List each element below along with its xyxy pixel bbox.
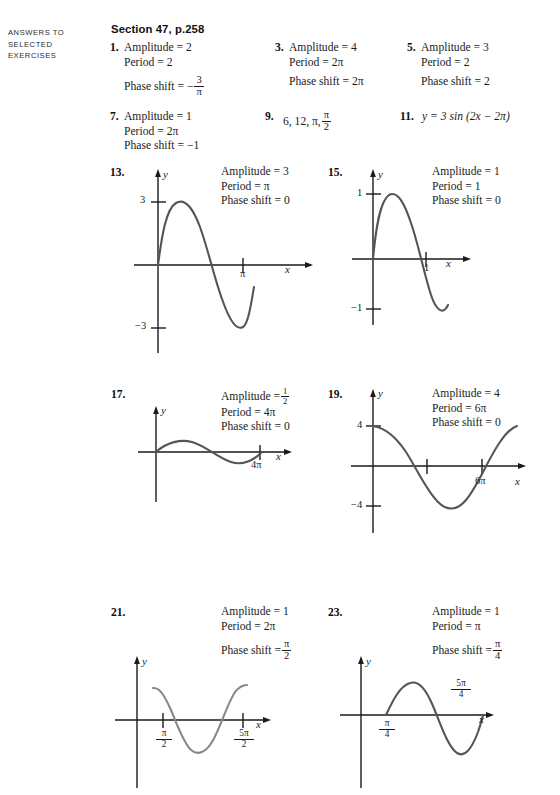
fraction-denominator: 4 [379, 729, 395, 740]
label-amplitude: Amplitude = [421, 41, 480, 54]
graph-13-y-tick-label-neg3: −3 [135, 320, 146, 331]
label-phase-shift: Phase shift = [421, 75, 481, 88]
x-axis-arrow [518, 463, 526, 469]
graph-23-x-label: x [479, 713, 484, 725]
answer-21-period: Period = 2π [221, 620, 292, 635]
answer-7-number: 7. [110, 110, 119, 125]
label-period: Period = [421, 56, 461, 69]
y-axis-arrow [370, 169, 376, 177]
label-period: Period = [124, 56, 164, 69]
answer-23-amplitude: Amplitude = 1 [432, 605, 503, 620]
graph-17-x-label: x [276, 450, 281, 462]
x-axis-arrow [305, 262, 313, 268]
answer-5-amplitude: Amplitude = 3 [421, 41, 490, 56]
fraction-numerator: π [156, 729, 172, 739]
x-axis-arrow [463, 256, 471, 262]
graph-19-y-tick-label-4: 4 [357, 419, 362, 430]
answer-23-period: Period = π [432, 620, 503, 635]
graph-23-x-tick-label-pi-over-4: π 4 [379, 719, 395, 740]
answer-1-phase-sign: − [187, 80, 194, 93]
answer-5-phase-value: 2 [484, 75, 490, 88]
graph-21-svg [113, 652, 303, 792]
graph-13: y x 3 −3 π [130, 165, 320, 355]
fraction-numerator: 1 [281, 387, 289, 396]
answer-9-value: 6, 12, π,π2 [283, 110, 332, 133]
answer-5-number: 5. [407, 41, 416, 56]
label-amplitude: Amplitude = [124, 110, 183, 123]
answer-7-period-value: 2π [167, 125, 179, 138]
graph-19-x-tick-label-6pi: 6π [475, 475, 486, 486]
answer-3-phase-shift: Phase shift = 2π [289, 75, 364, 90]
label-amplitude: Amplitude = [221, 605, 280, 618]
answer-3-number: 3. [275, 41, 284, 56]
answer-7: 7. Amplitude = 1 Period = 2π Phase shift… [124, 110, 199, 154]
label-phase-shift: Phase shift = [289, 75, 349, 88]
fraction-denominator: 2 [234, 739, 254, 750]
graph-13-svg [130, 165, 320, 355]
answer-3-phase-value: 2π [352, 75, 364, 88]
fraction-numerator: π [322, 110, 331, 121]
answer-17-number: 17. [111, 388, 126, 401]
fraction-denominator: π [194, 86, 203, 98]
answer-23-period-value: π [475, 620, 481, 633]
x-axis-arrow [486, 712, 494, 718]
graph-21-y-label: y [142, 655, 147, 667]
label-amplitude: Amplitude = [124, 41, 183, 54]
answer-7-phase-value: −1 [187, 139, 199, 152]
answer-15-number: 15. [328, 166, 343, 179]
label-period: Period = [432, 620, 472, 633]
answer-3-period: Period = 2π [289, 56, 364, 71]
graph-19: y x 4 −4 6π [348, 387, 548, 537]
fraction-numerator: 5π [451, 679, 471, 689]
answer-11-equation: y = 3 sin (2x − 2π) [422, 110, 510, 125]
answer-5: 5. Amplitude = 3 Period = 2 Phase shift … [421, 41, 490, 90]
answer-1-number: 1. [110, 41, 119, 56]
answer-1-amplitude: Amplitude = 2 [124, 41, 205, 56]
y-axis-arrow [155, 169, 161, 177]
answer-1-phase-shift: Phase shift = −3π [124, 75, 205, 98]
answer-3-amplitude: Amplitude = 4 [289, 41, 364, 56]
answer-1-period: Period = 2 [124, 56, 205, 71]
fraction-denominator: 2 [156, 739, 172, 750]
graph-23: π 4 5π 4 y x [338, 652, 528, 792]
answer-7-phase-shift: Phase shift = −1 [124, 139, 199, 154]
label-phase-shift: Phase shift = [124, 139, 184, 152]
label-amplitude: Amplitude = [289, 41, 348, 54]
answer-13-number: 13. [110, 166, 125, 179]
answer-page: ANSWERS TO SELECTED EXERCISES Section 47… [0, 0, 560, 795]
y-axis-arrow [370, 389, 376, 397]
graph-13-x-label: x [285, 263, 290, 275]
label-period: Period = [221, 620, 261, 633]
graph-13-x-tick-label-pi: π [240, 268, 245, 279]
x-axis-arrow [263, 717, 271, 723]
answer-21-period-value: 2π [264, 620, 276, 633]
graph-13-y-tick-label-3: 3 [140, 194, 145, 205]
graph-17-x-tick-label-4pi: 4π [251, 459, 262, 470]
answer-11: 11. y = 3 sin (2x − 2π) [422, 110, 510, 125]
answer-3-amplitude-value: 4 [351, 41, 357, 54]
running-head-line-3: EXERCISES [8, 50, 103, 62]
graph-23-x-tick-label-5pi-over-4: 5π 4 [451, 679, 471, 700]
answer-7-period: Period = 2π [124, 125, 199, 140]
answer-1-phase-fraction: 3π [194, 75, 203, 98]
answer-9-text: 6, 12, π, [283, 115, 321, 128]
y-axis-arrow [358, 656, 364, 664]
fraction-numerator: 5π [234, 729, 254, 739]
graph-17: y x 4π [136, 402, 321, 507]
answer-11-number: 11. [400, 110, 414, 125]
graph-21: y x π 2 5π 2 [113, 652, 303, 792]
answer-3: 3. Amplitude = 4 Period = 2π Phase shift… [289, 41, 364, 90]
graph-15-y-tick-label-neg1: −1 [351, 302, 362, 313]
answer-1-amplitude-value: 2 [186, 41, 192, 54]
graph-19-y-label: y [378, 387, 383, 399]
label-period: Period = [124, 125, 164, 138]
answer-9: 9. 6, 12, π,π2 [283, 110, 332, 133]
answer-21-amplitude: Amplitude = 1 [221, 605, 292, 620]
fraction-numerator: π [282, 639, 291, 650]
answer-5-period-value: 2 [464, 56, 470, 69]
fraction-numerator: π [493, 639, 502, 650]
answer-21-number: 21. [111, 606, 126, 619]
fraction-numerator: π [379, 719, 395, 729]
answer-21-amplitude-value: 1 [283, 605, 289, 618]
answer-5-amplitude-value: 3 [483, 41, 489, 54]
